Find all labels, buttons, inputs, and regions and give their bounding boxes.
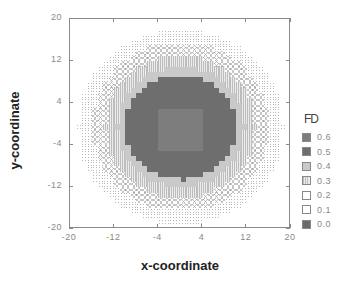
heatmap-cell (274, 145, 280, 151)
y-tick (69, 102, 73, 103)
x-tick-label: -12 (101, 232, 125, 242)
heatmap-cell (274, 156, 280, 162)
legend-label: 0.6 (317, 132, 331, 142)
x-tick (113, 18, 114, 22)
heatmap-cell (274, 108, 280, 114)
x-tick (157, 224, 158, 228)
y-tick-label: -12 (38, 180, 62, 190)
heatmap-cell (241, 198, 247, 204)
x-tick (113, 224, 114, 228)
y-tick (69, 144, 73, 145)
legend-label: 0.4 (317, 161, 331, 171)
legend-swatch (302, 162, 311, 171)
y-tick (69, 18, 73, 19)
fd-heatmap-cells (70, 19, 289, 227)
legend-label: 0.3 (317, 176, 331, 186)
plot-area (69, 18, 290, 228)
heatmap-cell (225, 208, 231, 214)
y-tick (286, 60, 290, 61)
y-tick-label: -4 (38, 138, 62, 148)
heatmap-cell (274, 150, 280, 156)
legend-swatch (302, 205, 311, 214)
legend-entry: 0.2 (302, 188, 331, 203)
heatmap-cell (269, 82, 275, 88)
x-tick (290, 18, 291, 22)
x-tick-label: -4 (145, 232, 169, 242)
legend-swatch (302, 133, 311, 142)
heatmap-cell (274, 135, 280, 141)
x-tick-label: -20 (57, 232, 81, 242)
x-tick-label: 12 (234, 232, 258, 242)
legend-entry: 0.3 (302, 174, 331, 189)
heatmap-cell (247, 192, 253, 198)
y-tick (69, 228, 73, 229)
y-tick-label: 12 (38, 54, 62, 64)
legend-entry: 0.1 (302, 203, 331, 218)
heatmap-cell (214, 213, 220, 219)
x-tick-label: 4 (190, 232, 214, 242)
legend-label: 0.2 (317, 190, 331, 200)
legend-label: 0.1 (317, 205, 331, 215)
y-tick-label: -20 (38, 222, 62, 232)
legend-entry: 0.6 (302, 130, 331, 145)
y-tick (69, 60, 73, 61)
legend-entry: 0.0 (302, 217, 331, 232)
y-tick-label: 4 (38, 96, 62, 106)
heatmap-cell (263, 72, 269, 78)
heatmap-cell (263, 177, 269, 183)
heatmap-cell (252, 187, 258, 193)
heatmap-cell (274, 140, 280, 146)
x-tick (69, 18, 70, 22)
y-tick (286, 18, 290, 19)
x-tick (245, 18, 246, 22)
legend-label: 0.0 (317, 219, 331, 229)
y-tick (286, 186, 290, 187)
heatmap-cell (258, 182, 264, 188)
legend-entry: 0.4 (302, 159, 331, 174)
y-tick (286, 102, 290, 103)
legend-swatch (302, 176, 311, 185)
heatmap-cell (269, 166, 275, 172)
y-tick (286, 144, 290, 145)
heatmap-cell (280, 124, 286, 130)
x-tick-label: 20 (278, 232, 302, 242)
x-tick (245, 224, 246, 228)
x-axis-title: x-coordinate (110, 258, 250, 273)
x-tick (201, 18, 202, 22)
heatmap-cell (236, 203, 242, 209)
legend-title: FD (304, 112, 331, 126)
y-tick (286, 228, 290, 229)
heatmap-cell (274, 93, 280, 99)
x-tick (201, 224, 202, 228)
legend-swatch (302, 220, 311, 229)
legend: FD 0.60.50.40.30.20.10.0 (302, 112, 331, 232)
x-tick (157, 18, 158, 22)
legend-entry: 0.5 (302, 145, 331, 160)
y-tick-label: 20 (38, 12, 62, 22)
y-axis-title: y-coordinate (7, 61, 22, 201)
legend-swatch (302, 191, 311, 200)
heatmap-cell (274, 114, 280, 120)
heatmap-cell (274, 129, 280, 135)
legend-swatch (302, 147, 311, 156)
legend-entries: 0.60.50.40.30.20.10.0 (302, 130, 331, 232)
legend-label: 0.5 (317, 147, 331, 157)
heatmap-cell (263, 171, 269, 177)
y-tick (69, 186, 73, 187)
heatmap-cell (274, 98, 280, 104)
heatmap-cell (269, 161, 275, 167)
heatmap-cell (274, 103, 280, 109)
